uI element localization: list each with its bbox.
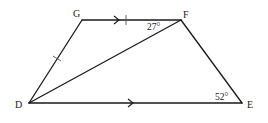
vertex-label-g: G xyxy=(73,8,80,19)
diagonal-df xyxy=(29,20,181,103)
diagram-svg: G F D E 27° 52° xyxy=(0,0,268,123)
segment-dg xyxy=(29,20,82,103)
segment-fe xyxy=(181,20,242,103)
vertex-label-e: E xyxy=(247,99,253,110)
vertex-label-f: F xyxy=(183,9,189,20)
trapezium-diagram: G F D E 27° 52° xyxy=(0,0,268,123)
vertex-label-d: D xyxy=(15,99,22,110)
angle-label-e: 52° xyxy=(215,92,229,102)
angle-label-f: 27° xyxy=(147,22,161,32)
